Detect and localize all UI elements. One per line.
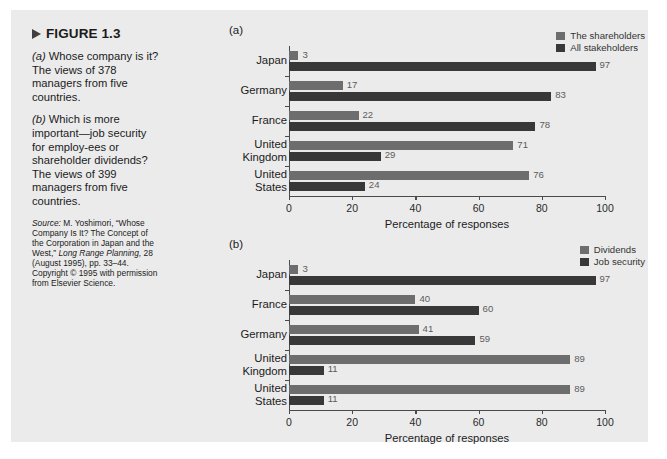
y-tick-a-4 [285,166,289,167]
x-tick-b-40 [415,410,416,414]
x-tick-a-20 [352,196,353,200]
legend-label: Dividends [594,244,636,255]
y-tick-b-4 [285,380,289,381]
bar-value-b-4-0: 89 [574,383,585,394]
caption-a-prefix: (a) [32,50,46,62]
caption-paragraph-a: (a) Whose company is it? The views of 37… [32,50,160,104]
x-tick-b-100 [605,410,606,414]
chart-a: (a) The shareholdersAll stakeholders Per… [221,24,651,229]
figure-page: FIGURE 1.3 (a) Whose company is it? The … [0,0,667,459]
x-tick-b-80 [542,410,543,414]
x-tick-a-80 [542,196,543,200]
caption-a-text: Whose company is it? The views of 378 ma… [32,50,158,103]
bar-value-b-2-0: 41 [423,323,434,334]
x-tick-label-b-40: 40 [410,416,422,428]
chart-b: (b) DividendsJob security Percentage of … [221,238,651,444]
caption-b-text: Which is more important—job security for… [32,113,148,207]
bar-value-a-3-1: 29 [385,149,396,160]
chart-a-plot-area: Percentage of responses 020406080100Japa… [289,46,605,196]
legend-item-b-0[interactable]: Dividends [580,244,645,255]
x-tick-label-b-80: 80 [536,416,548,428]
bar-value-a-1-1: 83 [555,89,566,100]
legend-item-a-0[interactable]: The shareholders [556,30,645,41]
caption-paragraph-b: (b) Which is more important—job security… [32,113,160,208]
category-label-a-4: UnitedStates [197,168,287,193]
x-tick-label-b-100: 100 [596,416,614,428]
bar-value-b-3-1: 11 [328,363,338,374]
x-tick-a-40 [415,196,416,200]
bar-value-b-4-1: 11 [328,393,338,404]
bar-value-a-4-1: 24 [369,179,380,190]
y-tick-a-2 [285,106,289,107]
x-tick-label-a-80: 80 [536,202,548,214]
x-tick-label-a-0: 0 [286,202,292,214]
chart-a-x-axis-title: Percentage of responses [385,218,509,230]
x-tick-label-b-20: 20 [346,416,358,428]
x-tick-label-a-20: 20 [346,202,358,214]
bar-value-a-0-1: 97 [600,59,611,70]
bar-b-4-1[interactable] [289,396,324,405]
bar-b-1-1[interactable] [289,306,479,315]
category-label-a-2: France [197,114,287,127]
category-label-b-1: France [197,298,287,311]
bar-b-2-0[interactable] [289,325,419,334]
x-tick-label-b-0: 0 [286,416,292,428]
y-tick-b-1 [285,290,289,291]
bar-b-1-0[interactable] [289,295,415,304]
bar-value-b-1-0: 40 [419,293,430,304]
chart-a-panel-label: (a) [229,24,243,36]
source-journal: Long Range Planning, [58,248,141,258]
bar-value-b-3-0: 89 [574,353,585,364]
bar-a-1-1[interactable] [289,92,551,101]
bar-a-3-0[interactable] [289,141,513,150]
figure-panel: FIGURE 1.3 (a) Whose company is it? The … [11,10,648,442]
bar-a-0-0[interactable] [289,51,298,60]
x-tick-label-a-40: 40 [410,202,422,214]
bar-b-0-0[interactable] [289,265,298,274]
legend-swatch-icon [580,246,589,254]
category-label-b-2: Germany [197,328,287,341]
bar-a-4-1[interactable] [289,182,365,191]
category-label-a-3: UnitedKingdom [197,138,287,163]
figure-heading: FIGURE 1.3 [32,26,160,41]
bar-value-a-4-0: 76 [533,169,544,180]
triangle-right-icon [32,29,41,39]
bar-b-0-1[interactable] [289,276,596,285]
bar-a-3-1[interactable] [289,152,381,161]
x-tick-label-a-60: 60 [473,202,485,214]
chart-b-x-axis-title: Percentage of responses [385,432,509,444]
bar-value-a-1-0: 17 [347,79,358,90]
chart-b-plot-area: Percentage of responses 020406080100Japa… [289,260,605,410]
caption-b-prefix: (b) [32,113,46,125]
y-tick-a-1 [285,76,289,77]
category-label-a-1: Germany [197,84,287,97]
x-tick-a-0 [289,196,290,200]
bar-a-0-1[interactable] [289,62,596,71]
bar-value-b-1-1: 60 [483,303,494,314]
y-tick-b-2 [285,320,289,321]
bar-value-a-3-0: 71 [517,139,528,150]
x-tick-b-20 [352,410,353,414]
category-label-b-3: UnitedKingdom [197,352,287,377]
bar-value-a-2-0: 22 [363,109,374,120]
bar-value-a-2-1: 78 [539,119,550,130]
figure-caption-column: FIGURE 1.3 (a) Whose company is it? The … [32,26,160,288]
bar-b-3-1[interactable] [289,366,324,375]
category-label-a-0: Japan [197,54,287,67]
x-tick-a-60 [479,196,480,200]
bar-value-a-0-0: 3 [302,49,307,60]
x-tick-label-a-100: 100 [596,202,614,214]
bar-a-2-1[interactable] [289,122,535,131]
bar-b-2-1[interactable] [289,336,475,345]
x-tick-a-100 [605,196,606,200]
chart-a-x-axis [289,196,605,197]
bar-value-b-2-1: 59 [479,333,490,344]
x-tick-label-b-60: 60 [473,416,485,428]
bar-a-4-0[interactable] [289,171,529,180]
category-label-b-0: Japan [197,268,287,281]
source-note: Source: M. Yoshimori, “Whose Company Is … [32,218,160,289]
chart-b-panel-label: (b) [229,238,243,250]
bar-a-1-0[interactable] [289,81,343,90]
legend-label: The shareholders [570,30,645,41]
bar-a-2-0[interactable] [289,111,359,120]
